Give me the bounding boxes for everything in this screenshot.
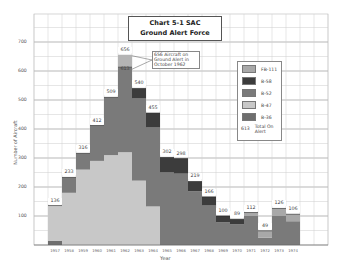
legend-swatch [242, 65, 256, 73]
x-tick-label: 1962 [118, 248, 132, 253]
legend-label: FB-111 [261, 67, 277, 72]
legend-swatch [242, 113, 256, 121]
total-value-label: 412 [90, 118, 104, 124]
total-value-label: 126 [272, 200, 286, 206]
total-value-label: 219 [188, 173, 202, 179]
legend-swatch [242, 77, 256, 85]
total-value-label: 509 [104, 89, 118, 95]
x-tick-label: 1968 [202, 248, 216, 253]
total-value-label: 89 [230, 211, 244, 217]
x-tick-label: 1959 [76, 248, 90, 253]
x-tick-label: 1958 [62, 248, 76, 253]
legend: FB-111 B-58 B-52 B-47 B-36 613 Total On … [237, 61, 282, 141]
legend-item-b47: B-47 [242, 101, 272, 109]
chart-title: Chart 5-1 SAC Ground Alert Force [128, 16, 222, 41]
y-tick-label: 100 [18, 213, 27, 218]
annotation-box: 656 Aircraft on Ground Alert in October … [152, 51, 200, 69]
legend-total-note: 613 Total On Alert [241, 124, 274, 134]
x-tick-label: 1973 [272, 248, 286, 253]
x-tick-label: 1967 [188, 248, 202, 253]
x-tick-label: 1966 [174, 248, 188, 253]
total-value-label: 233 [62, 169, 76, 175]
chart-title-line2: Ground Alert Force [129, 28, 221, 38]
total-value-label: 316 [76, 145, 90, 151]
y-axis-title: Number of Aircraft [13, 118, 18, 168]
total-value-label: 136 [48, 198, 62, 204]
x-tick-label: 1972 [258, 248, 272, 253]
x-tick-label: 1957 [48, 248, 62, 253]
y-tick-label: 600 [18, 68, 27, 73]
x-tick-label: 1971 [244, 248, 258, 253]
total-value-label: 166 [202, 189, 216, 195]
x-tick-label: 1960 [90, 248, 104, 253]
x-tick-label: 1964 [146, 248, 160, 253]
y-tick-label: 200 [18, 184, 27, 189]
legend-swatch [242, 101, 256, 109]
total-value-label: 49 [258, 223, 272, 229]
x-tick-label: 1974 [286, 248, 300, 253]
legend-item-b52: B-52 [242, 89, 272, 97]
legend-total-value: 613 [241, 126, 250, 134]
legend-item-b36: B-36 [242, 113, 272, 121]
chart: Chart 5-1 SAC Ground Alert Force 656 Air… [0, 0, 337, 265]
total-value-label: 540 [132, 80, 146, 86]
legend-label: B-36 [261, 115, 272, 120]
y-tick-label: 700 [18, 39, 27, 44]
legend-label: B-47 [261, 103, 272, 108]
legend-swatch [242, 89, 256, 97]
y-tick-label: 300 [18, 155, 27, 160]
legend-total-label: Alert [255, 129, 274, 134]
x-tick-label: 1969 [216, 248, 230, 253]
x-tick-label: 1961 [104, 248, 118, 253]
total-value-label: 302 [160, 149, 174, 155]
total-value-label: 100 [216, 208, 230, 214]
legend-label: B-52 [261, 91, 272, 96]
total-value-label: 613 [118, 66, 132, 72]
x-tick-label: 1965 [160, 248, 174, 253]
y-tick-label: 400 [18, 126, 27, 131]
total-value-label: 455 [146, 105, 160, 111]
peak-value-label: 656 [118, 47, 132, 53]
x-tick-label: 1970 [230, 248, 244, 253]
chart-title-line1: Chart 5-1 SAC [129, 18, 221, 28]
legend-label: B-58 [261, 79, 272, 84]
legend-item-fb111: FB-111 [242, 65, 277, 73]
annotation-line: October 1962 [154, 62, 198, 67]
total-value-label: 298 [174, 151, 188, 157]
y-tick-label: 500 [18, 97, 27, 102]
x-tick-label: 1963 [132, 248, 146, 253]
total-value-label: 112 [244, 205, 258, 211]
total-value-label: 106 [286, 206, 300, 212]
x-axis-title: Year [160, 255, 171, 261]
legend-item-b58: B-58 [242, 77, 272, 85]
